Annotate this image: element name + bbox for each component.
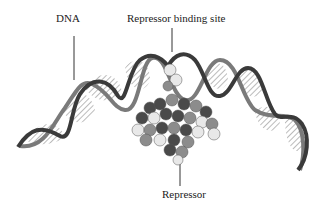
dna-label: DNA	[56, 12, 80, 24]
repressor-label: Repressor	[162, 188, 206, 200]
dna-repressor-diagram	[0, 0, 329, 213]
binding-site-label: Repressor binding site	[127, 12, 225, 24]
